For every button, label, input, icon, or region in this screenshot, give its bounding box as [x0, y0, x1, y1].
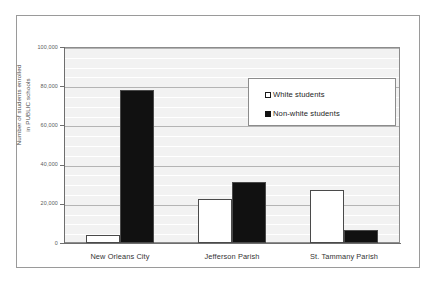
gridline-minor	[65, 136, 399, 137]
bar-white-students	[198, 199, 232, 243]
bar-white-students	[86, 235, 120, 243]
chart-legend: White students Non-white students	[248, 78, 396, 126]
y-axis-tick-mark	[60, 165, 64, 166]
legend-entry-non-white-students: Non-white students	[265, 109, 340, 118]
x-axis-category-label: St. Tammany Parish	[288, 252, 400, 261]
gridline-minor	[65, 68, 399, 69]
y-axis-tick-label: 0	[6, 240, 58, 246]
legend-label-white-students: White students	[273, 90, 325, 99]
bar-non-white-students	[344, 230, 378, 243]
gridline-major	[65, 48, 399, 49]
bar-white-students	[310, 190, 344, 243]
black-square-swatch-icon	[265, 111, 271, 117]
y-axis-line	[64, 47, 65, 244]
x-axis-line	[64, 243, 401, 244]
y-axis-title-line-2: in PUBLIC schools	[23, 38, 32, 172]
chart-figure: 020,00040,00060,00080,000100,000 Number …	[0, 0, 436, 285]
white-square-swatch-icon	[265, 92, 271, 98]
bar-non-white-students	[120, 90, 154, 243]
y-axis-tick-mark	[60, 47, 64, 48]
bar-non-white-students	[232, 182, 266, 243]
y-axis-tick-mark	[60, 243, 64, 244]
x-axis-category-label: New Orleans City	[64, 252, 176, 261]
x-axis-category-label: Jefferson Parish	[176, 252, 288, 261]
gridline-minor	[65, 175, 399, 176]
legend-entry-white-students: White students	[265, 90, 325, 99]
y-axis-tick-mark	[60, 86, 64, 87]
gridline-major	[65, 126, 399, 127]
legend-label-non-white-students: Non-white students	[273, 109, 340, 118]
y-axis-title: Number of students enrolled in PUBLIC sc…	[14, 38, 32, 172]
gridline-minor	[65, 146, 399, 147]
y-axis-tick-mark	[60, 204, 64, 205]
y-axis-tick-label: 20,000	[6, 200, 58, 206]
gridline-minor	[65, 58, 399, 59]
y-axis-tick-mark	[60, 125, 64, 126]
gridline-minor	[65, 156, 399, 157]
y-axis-title-line-1: Number of students enrolled	[14, 38, 23, 172]
gridline-major	[65, 166, 399, 167]
